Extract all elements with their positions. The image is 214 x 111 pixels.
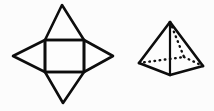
figure-container: Two black line drawings on a white backg… xyxy=(0,0,214,111)
geometry-figure xyxy=(0,0,214,111)
square-pyramid-net xyxy=(13,5,113,103)
square-pyramid-solid xyxy=(139,22,203,75)
net-outline-fill xyxy=(13,5,113,103)
